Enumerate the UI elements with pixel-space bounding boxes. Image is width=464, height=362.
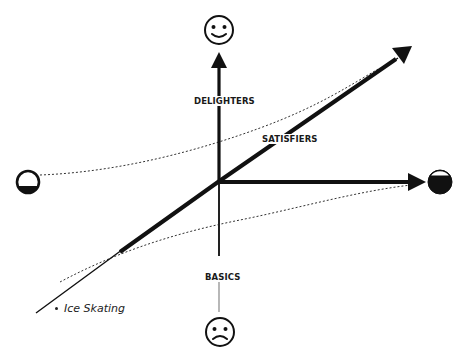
vertical-arrowhead <box>211 52 227 68</box>
empty-circle-icon <box>17 171 39 193</box>
smiley-face-icon <box>205 16 233 44</box>
delighters-curve <box>40 68 380 175</box>
satisfiers-line-thick <box>120 59 396 252</box>
list-item: Ice Skating <box>55 302 125 315</box>
basics-label: BASICS <box>204 272 241 282</box>
horizontal-arrowhead <box>408 173 426 191</box>
full-circle-icon <box>428 170 452 194</box>
delighters-label: DELIGHTERS <box>193 96 256 106</box>
bullet-icon <box>55 307 58 310</box>
frowning-face-icon <box>206 318 234 346</box>
basics-curve <box>60 184 420 282</box>
satisfiers-label: SATISFIERS <box>261 134 319 144</box>
item-label: Ice Skating <box>64 302 125 315</box>
